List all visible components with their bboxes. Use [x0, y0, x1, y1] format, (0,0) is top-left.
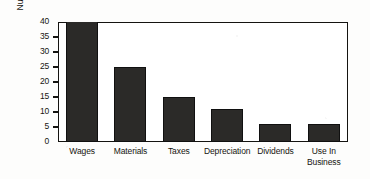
y-tick-label: 25 [40, 61, 49, 71]
y-axis-ticks: 4035302520151050 [0, 22, 53, 142]
bar-slot [203, 22, 251, 142]
y-tick-label: 5 [44, 121, 49, 131]
bar-slot [155, 22, 203, 142]
bar [163, 97, 195, 142]
bar-slot [58, 22, 106, 142]
x-axis-labels: WagesMaterialsTaxesDepreciationDividends… [58, 146, 348, 179]
x-tick-label: Use InBusiness [290, 146, 358, 168]
x-tick-label-line: Use In [290, 146, 358, 157]
bar-slot [106, 22, 154, 142]
bar [66, 22, 98, 142]
y-tick-label: 35 [40, 31, 49, 41]
bar-series [58, 22, 348, 142]
y-tick-label: 30 [40, 46, 49, 56]
bar-slot [251, 22, 299, 142]
bar [259, 124, 291, 142]
y-tick-label: 15 [40, 91, 49, 101]
bar-slot [300, 22, 348, 142]
bar [308, 124, 340, 142]
bar [114, 67, 146, 142]
y-tick-label: 0 [44, 136, 49, 146]
x-tick-label-line: Business [290, 157, 358, 168]
y-tick-label: 20 [40, 76, 49, 86]
bar [211, 109, 243, 142]
y-tick-label: 40 [40, 16, 49, 26]
y-tick-label: 10 [40, 106, 49, 116]
bar-chart-figure: Number of Cents Spent 4035302520151050 W… [0, 0, 370, 179]
